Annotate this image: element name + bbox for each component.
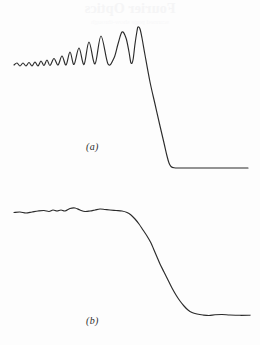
figure-plot-area [0,0,260,345]
curve-a-fresnel-fringe-profile [14,27,248,168]
panel-label-a: (a) [86,141,99,152]
figure-page: Fourier Optics scanned page show-through… [0,0,260,345]
panel-label-b: (b) [86,315,99,326]
curve-b-smoothed-edge-profile [14,208,250,316]
